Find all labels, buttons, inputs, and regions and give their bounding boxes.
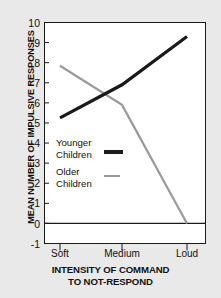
x-tick-label-loud: Loud: [176, 248, 198, 259]
x-axis-title-line2: TO NOT-RESPOND: [0, 276, 221, 287]
legend-label-younger-line2: Children: [56, 149, 92, 160]
legend-swatch-older: [104, 175, 120, 177]
chart-figure: MEAN NUMBER OF IMPULSIVE RESPONSES 10 9 …: [0, 0, 221, 298]
x-axis-title-line1: INTENSITY OF COMMAND: [0, 264, 221, 275]
x-tick-label-medium: Medium: [104, 248, 140, 259]
x-tick-label-soft: Soft: [51, 248, 69, 259]
legend-label-older-line2: Children: [56, 178, 92, 189]
legend-swatch-younger: [104, 150, 123, 154]
legend-label-older-line1: Older: [56, 166, 79, 177]
plot-frame: [45, 23, 206, 244]
legend-label-younger-line1: Younger: [56, 137, 91, 148]
